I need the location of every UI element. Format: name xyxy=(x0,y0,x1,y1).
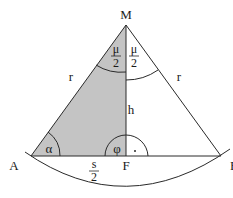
label-half-angle-right-denominator: 2 xyxy=(131,56,137,70)
sector-diagram: M A F B r r h s 2 μ 2 μ 2 α φ xyxy=(0,0,233,198)
angle-arc-mu-right xyxy=(126,70,158,80)
label-half-chord-denominator: 2 xyxy=(91,170,97,184)
label-half-angle-right-numerator: μ xyxy=(131,42,137,56)
right-angle-dot xyxy=(134,150,136,152)
label-angle-phi: φ xyxy=(113,141,121,156)
point-label-M: M xyxy=(120,7,132,22)
label-radius-right: r xyxy=(177,69,182,84)
label-height: h xyxy=(128,102,135,117)
label-half-angle-left-denominator: 2 xyxy=(113,56,119,70)
label-half-angle-left-numerator: μ xyxy=(113,42,119,56)
point-label-A: A xyxy=(9,158,19,173)
right-angle-arc xyxy=(126,135,148,156)
label-radius-left: r xyxy=(69,69,74,84)
label-angle-alpha: α xyxy=(46,141,53,156)
label-half-chord-numerator: s xyxy=(92,157,97,171)
point-label-B: B xyxy=(230,158,233,173)
side-MB xyxy=(126,25,221,156)
point-label-F: F xyxy=(122,158,129,173)
